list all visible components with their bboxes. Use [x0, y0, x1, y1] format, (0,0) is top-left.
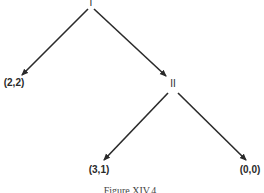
payoff-left: (2,2) [4, 77, 25, 88]
node-player-1: I [90, 0, 93, 8]
edge-I-to-2-2 [22, 9, 88, 75]
edge-II-to-3-1 [104, 93, 168, 160]
payoff-right: (0,0) [240, 164, 261, 175]
game-tree-edges [0, 0, 264, 193]
edge-I-to-II [94, 9, 166, 76]
figure-caption: Figure XIV.4 [104, 185, 157, 193]
node-player-2: II [170, 78, 176, 89]
edge-II-to-0-0 [178, 93, 246, 160]
payoff-middle: (3,1) [89, 164, 110, 175]
